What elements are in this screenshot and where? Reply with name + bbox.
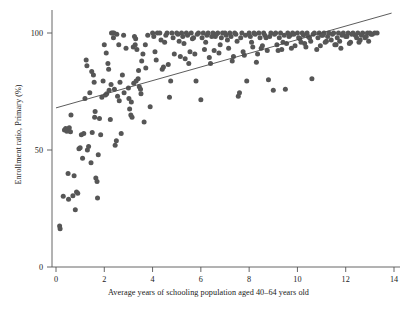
data-point — [175, 32, 180, 37]
data-point — [142, 119, 147, 124]
data-point — [157, 31, 162, 36]
data-point — [248, 34, 253, 39]
data-point — [66, 171, 71, 176]
data-point — [325, 34, 330, 39]
data-point — [104, 50, 109, 55]
x-tick-label: 4 — [151, 275, 155, 284]
data-point — [121, 33, 126, 38]
data-point — [116, 42, 121, 47]
data-point — [237, 90, 242, 95]
x-axis-ticks: 02468101214 — [54, 267, 398, 284]
y-tick-label: 50 — [35, 146, 43, 155]
data-point — [120, 73, 125, 78]
x-tick-label: 14 — [390, 275, 398, 284]
data-point — [181, 41, 186, 46]
data-point — [260, 43, 265, 48]
data-point — [159, 38, 164, 43]
data-point — [98, 132, 103, 137]
data-point — [209, 34, 214, 39]
data-point — [78, 145, 83, 150]
data-point — [172, 52, 177, 57]
data-point — [178, 54, 183, 59]
data-point — [166, 62, 171, 67]
data-point — [89, 69, 94, 74]
data-point — [70, 193, 75, 198]
y-axis-label: Enrollment ratio, Primary (%) — [14, 55, 23, 215]
data-point — [109, 82, 114, 87]
data-point — [168, 78, 173, 83]
data-point — [192, 52, 197, 57]
data-point — [138, 91, 143, 96]
data-point — [133, 42, 138, 47]
y-axis-ticks: 050100 — [31, 29, 52, 272]
data-point — [145, 33, 150, 38]
data-point — [369, 32, 374, 37]
data-point — [75, 191, 80, 196]
data-point — [338, 46, 343, 51]
data-point — [243, 33, 248, 38]
data-point — [224, 33, 229, 38]
data-point — [80, 156, 85, 161]
plot-canvas: 02468101214 050100 — [0, 0, 417, 312]
data-point — [186, 61, 191, 66]
data-point — [195, 32, 200, 37]
data-point — [139, 59, 144, 64]
data-point — [289, 46, 294, 51]
data-point — [244, 78, 249, 83]
data-point — [92, 115, 97, 120]
data-point — [95, 179, 100, 184]
data-point — [190, 36, 195, 41]
axis-spines — [52, 10, 400, 267]
data-point — [140, 52, 145, 57]
data-point — [151, 34, 156, 39]
data-point — [323, 40, 328, 45]
data-point — [354, 35, 359, 40]
x-tick-label: 10 — [293, 275, 301, 284]
data-point — [194, 78, 199, 83]
data-point — [73, 207, 78, 212]
data-point — [320, 33, 325, 38]
data-point — [136, 68, 141, 73]
data-point — [95, 195, 100, 200]
data-point — [108, 117, 113, 122]
data-point — [143, 42, 148, 47]
data-point — [163, 33, 168, 38]
data-point — [212, 48, 217, 53]
data-point — [230, 59, 235, 64]
data-point — [124, 46, 129, 51]
data-point — [282, 33, 287, 38]
data-point — [138, 87, 143, 92]
data-point — [127, 107, 132, 112]
data-point — [329, 38, 334, 43]
data-point — [90, 130, 95, 135]
data-point — [117, 98, 122, 103]
x-tick-label: 2 — [102, 275, 106, 284]
x-tick-label: 0 — [54, 275, 58, 284]
data-point — [340, 33, 345, 38]
data-point — [61, 194, 66, 199]
data-point — [86, 144, 91, 149]
y-tick-label: 0 — [39, 263, 43, 272]
data-point — [356, 40, 361, 45]
data-point — [133, 36, 138, 41]
data-point — [106, 67, 111, 72]
data-point — [308, 39, 313, 44]
data-point — [277, 35, 282, 40]
data-point — [309, 76, 314, 81]
data-point — [204, 33, 209, 38]
data-point — [154, 57, 159, 62]
data-point — [347, 41, 352, 46]
data-point — [92, 80, 97, 85]
data-point — [177, 39, 182, 44]
data-point — [359, 33, 364, 38]
data-point — [241, 49, 246, 54]
data-point — [187, 49, 192, 54]
data-point — [286, 34, 291, 39]
data-point — [291, 32, 296, 37]
data-point — [207, 55, 212, 60]
data-point — [214, 32, 219, 37]
data-point — [364, 34, 369, 39]
data-point — [122, 90, 127, 95]
data-point — [114, 32, 119, 37]
data-point — [200, 35, 205, 40]
